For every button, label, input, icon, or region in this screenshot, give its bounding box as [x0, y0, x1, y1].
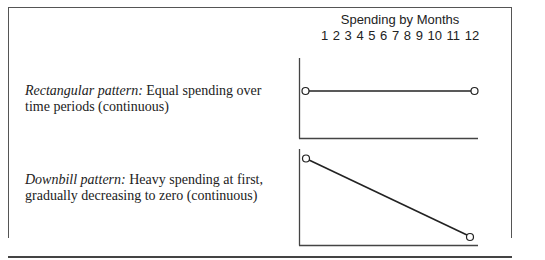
start-point-marker: [302, 88, 309, 95]
spending-line: [309, 160, 467, 235]
pattern-charts: [0, 0, 545, 260]
end-point-marker: [467, 234, 474, 241]
rectangular-pattern-chart: [299, 58, 478, 139]
downhill-pattern-chart: [299, 149, 478, 246]
start-point-marker: [303, 155, 310, 162]
end-point-marker: [471, 88, 478, 95]
